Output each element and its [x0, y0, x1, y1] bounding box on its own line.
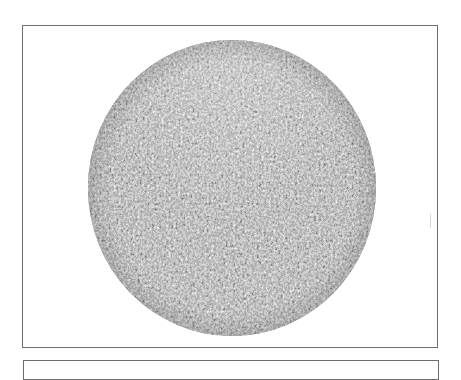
scan-artifact [430, 214, 431, 228]
labyrinth-pattern-disc [88, 40, 376, 336]
pattern-image [88, 40, 376, 336]
next-figure-frame [23, 360, 439, 380]
